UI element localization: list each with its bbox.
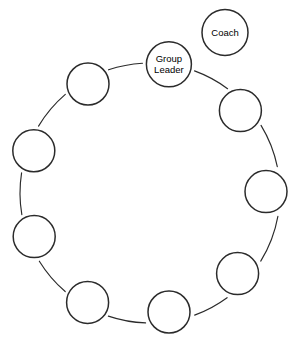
node-circle-member-3 bbox=[217, 253, 259, 295]
node-group-leader[interactable]: GroupLeader bbox=[146, 42, 191, 87]
connector-arc bbox=[108, 316, 145, 323]
diagram-svg: GroupLeaderCoach bbox=[0, 0, 301, 354]
node-member-3[interactable] bbox=[217, 253, 259, 295]
node-member-8[interactable] bbox=[67, 63, 109, 105]
connector-arc bbox=[39, 261, 65, 291]
diagram-canvas: GroupLeaderCoach bbox=[0, 0, 301, 354]
node-label-coach: Coach bbox=[211, 27, 238, 38]
node-circle-member-6 bbox=[13, 216, 55, 258]
node-circle-member-8 bbox=[67, 63, 109, 105]
node-circle-member-2 bbox=[245, 171, 287, 213]
node-label-group-leader-line-1: Group bbox=[156, 53, 182, 64]
node-member-6[interactable] bbox=[13, 216, 55, 258]
connector-arc bbox=[195, 71, 228, 89]
node-member-2[interactable] bbox=[245, 171, 287, 213]
node-member-1[interactable] bbox=[219, 90, 261, 132]
connector-arc bbox=[195, 298, 227, 315]
connector-arc bbox=[20, 173, 22, 215]
connector-arc bbox=[39, 94, 66, 126]
node-member-4[interactable] bbox=[148, 291, 190, 333]
node-member-5[interactable] bbox=[67, 281, 109, 323]
node-circle-member-1 bbox=[219, 90, 261, 132]
node-circle-member-7 bbox=[13, 130, 55, 172]
node-coach[interactable]: Coach bbox=[202, 10, 248, 56]
connector-arc bbox=[261, 125, 277, 166]
connector-arc bbox=[109, 63, 143, 70]
node-member-7[interactable] bbox=[13, 130, 55, 172]
node-layer: GroupLeaderCoach bbox=[13, 10, 287, 334]
node-circle-member-5 bbox=[67, 281, 109, 323]
node-label-group-leader-line-2: Leader bbox=[154, 64, 184, 75]
node-circle-member-4 bbox=[148, 291, 190, 333]
connector-arc bbox=[261, 216, 278, 261]
